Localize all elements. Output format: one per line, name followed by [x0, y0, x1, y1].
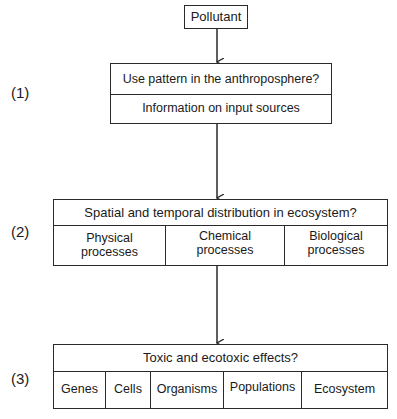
stage-3-item-organisms: Organisms [151, 372, 223, 408]
stage-3-question: Toxic and ecotoxic effects? [54, 345, 387, 372]
stage-2-question: Spatial and temporal distribution in eco… [54, 200, 387, 226]
stage-3-item-genes: Genes [54, 372, 105, 408]
stage-3-item-ecosystem: Ecosystem [302, 372, 387, 408]
stage-2-item-physical: Physical processes [54, 226, 165, 265]
stage-3-box: Toxic and ecotoxic effects? Genes Cells … [53, 344, 388, 409]
stage-1-number: (1) [11, 84, 29, 101]
stage-1-item-input-sources: Information on input sources [111, 95, 331, 123]
stage-1-question: Use pattern in the anthroposphere? [111, 64, 331, 95]
stage-3-item-cells: Cells [106, 372, 150, 408]
stage-3-number: (3) [11, 370, 29, 387]
stage-3-item-populations: Populations [224, 370, 301, 406]
stage-2-box: Spatial and temporal distribution in eco… [53, 199, 388, 266]
pollutant-label: Pollutant [185, 6, 247, 28]
stage-2-item-chemical: Chemical processes [166, 224, 284, 263]
stage-2-item-biological: Biological processes [285, 224, 387, 263]
stage-2-number: (2) [11, 223, 29, 240]
stage-1-box: Use pattern in the anthroposphere? Infor… [110, 63, 332, 124]
pollutant-box: Pollutant [184, 5, 248, 29]
